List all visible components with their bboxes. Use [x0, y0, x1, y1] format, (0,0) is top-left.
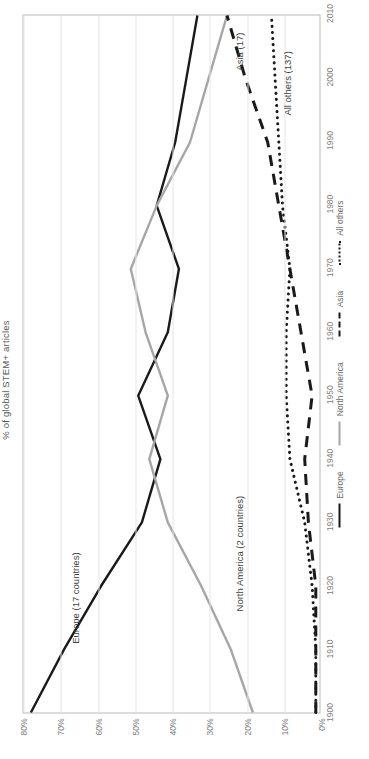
x-axis-tick-label: 1910	[324, 639, 334, 658]
stem-articles-line-chart: % of global STEM+ articles 0%10%20%30%40…	[0, 0, 369, 759]
series-annotation: All others (137)	[282, 51, 293, 115]
gridline	[247, 15, 248, 712]
y-axis-tick-label: 70%	[55, 718, 65, 735]
y-axis-tick-label: 40%	[167, 718, 177, 735]
y-axis-tick-label: 10%	[279, 718, 289, 735]
legend-item-north-america[interactable]: North America	[334, 362, 344, 445]
series-annotation: Europe (17 countries)	[70, 552, 81, 643]
legend-label: Europe	[334, 471, 344, 498]
x-axis-tick-label: 1900	[324, 703, 334, 722]
gridline	[321, 15, 322, 712]
x-axis-tick-label: 1940	[324, 448, 334, 467]
legend-label: Asia	[334, 290, 344, 307]
legend-label: North America	[334, 362, 344, 416]
y-axis-tick-label: 30%	[204, 718, 214, 735]
series-lines-svg	[23, 15, 319, 712]
x-axis-tick-label: 2010	[324, 4, 334, 23]
series-annotation: Asia (17)	[234, 32, 245, 70]
legend-item-asia[interactable]: Asia	[334, 290, 344, 336]
x-axis-tick-label: 1920	[324, 575, 334, 594]
gridline	[209, 15, 210, 712]
x-axis-tick-label: 2000	[324, 67, 334, 86]
legend-item-all-others[interactable]: All others	[334, 200, 344, 264]
y-axis-tick-label: 80%	[18, 718, 28, 735]
chart-figure-rotator: % of global STEM+ articles 0%10%20%30%40…	[0, 0, 369, 759]
legend-item-europe[interactable]: Europe	[334, 471, 344, 527]
x-axis-tick-label: 1950	[324, 385, 334, 404]
x-axis-tick-label: 1960	[324, 321, 334, 340]
legend-swatch-icon	[338, 240, 340, 264]
legend-swatch-icon	[338, 503, 340, 527]
gridline	[284, 15, 285, 712]
x-axis-tick-label: 1930	[324, 512, 334, 531]
y-axis-tick-label: 20%	[242, 718, 252, 735]
plot-area: 0%10%20%30%40%50%60%70%80%19001910192019…	[22, 14, 320, 713]
x-axis-tick-label: 1990	[324, 131, 334, 150]
gridline	[172, 15, 173, 712]
gridline	[60, 15, 61, 712]
gridline	[135, 15, 136, 712]
legend-swatch-icon	[338, 421, 340, 445]
y-axis-tick-label: 50%	[130, 718, 140, 735]
x-axis-tick-label: 1970	[324, 258, 334, 277]
gridline	[23, 15, 24, 712]
series-line-all-others	[271, 15, 315, 712]
y-axis-tick-label: 60%	[93, 718, 103, 735]
gridline	[98, 15, 99, 712]
chart-legend: EuropeNorth AmericaAsiaAll others	[334, 14, 344, 713]
series-annotation: North America (2 countries)	[234, 495, 245, 611]
legend-label: All others	[334, 200, 344, 235]
legend-swatch-icon	[338, 312, 340, 336]
x-axis-tick-label: 1980	[324, 194, 334, 213]
y-axis-title: % of global STEM+ articles	[0, 0, 10, 759]
